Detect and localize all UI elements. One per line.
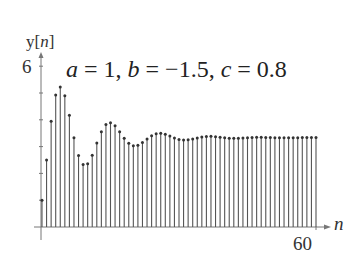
y-axis-label: y[n] (26, 32, 54, 52)
stem-n21 (136, 144, 139, 227)
stem-n34 (196, 136, 199, 227)
stem-n59 (310, 136, 313, 227)
stem-n9 (82, 163, 85, 227)
chart-title: a = 1, b = −1.5, c = 0.8 (66, 56, 287, 83)
stem-n41 (228, 137, 231, 227)
stem-n39 (219, 136, 222, 227)
stem-n20 (132, 144, 135, 227)
y-tick-label-6: 6 (22, 56, 32, 78)
stem-n55 (292, 136, 295, 227)
stem-n12 (95, 142, 98, 227)
stem-n23 (146, 137, 149, 227)
stem-n38 (214, 135, 217, 227)
stem-n42 (232, 137, 235, 227)
stem-n32 (187, 138, 190, 227)
stem-n5 (63, 94, 66, 227)
stem-n30 (178, 138, 181, 227)
stem-n33 (191, 138, 194, 227)
stem-n49 (264, 136, 267, 227)
stem-n43 (237, 137, 240, 227)
stem-n56 (296, 136, 299, 227)
stem-n35 (200, 136, 203, 227)
stem-n57 (301, 136, 304, 227)
stem-n53 (283, 136, 286, 227)
stem-n52 (278, 136, 281, 227)
stem-n2 (50, 120, 53, 227)
stem-n45 (246, 136, 249, 227)
stem-n1 (45, 159, 48, 228)
stems (41, 85, 318, 227)
stem-n36 (205, 135, 208, 227)
stem-n11 (91, 154, 94, 227)
stem-n60 (315, 136, 318, 227)
stem-n24 (150, 134, 153, 227)
stem-n8 (77, 154, 80, 227)
stem-n54 (287, 136, 290, 227)
stem-n51 (273, 136, 276, 227)
stem-n48 (260, 136, 263, 227)
stem-n18 (123, 137, 126, 227)
x-axis-label: n (334, 213, 344, 235)
stem-n28 (168, 135, 171, 227)
x-tick-label-60: 60 (293, 233, 312, 255)
stem-n15 (109, 121, 112, 227)
stem-n17 (118, 130, 121, 227)
stem-n10 (86, 162, 89, 227)
stem-n16 (114, 124, 117, 227)
stem-n19 (127, 142, 130, 227)
stem-n27 (164, 133, 167, 227)
stem-n22 (141, 141, 144, 227)
stem-n31 (182, 139, 185, 227)
stem-n58 (305, 136, 308, 227)
stem-n47 (255, 136, 258, 227)
stem-n13 (100, 130, 103, 227)
stem-n40 (223, 136, 226, 227)
stem-n29 (173, 137, 176, 227)
stem-n44 (241, 137, 244, 227)
stem-n46 (251, 136, 254, 227)
stem-n25 (155, 132, 158, 227)
stem-n14 (104, 123, 107, 227)
stem-n4 (59, 85, 62, 227)
stem-n3 (54, 94, 57, 227)
stem-n26 (159, 132, 162, 227)
stem-n50 (269, 136, 272, 227)
stem-n37 (209, 135, 212, 227)
stem-n7 (72, 136, 75, 227)
stem-plot (0, 0, 363, 263)
stem-n6 (68, 114, 71, 227)
